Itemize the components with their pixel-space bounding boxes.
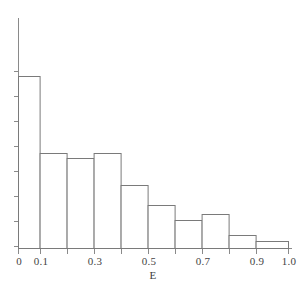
histogram-bar <box>148 206 175 249</box>
histogram-bar <box>256 242 288 249</box>
x-tick-label-0p5: 0.5 <box>142 255 156 267</box>
histogram-bar <box>121 186 148 249</box>
x-tick-label-0p7: 0.7 <box>196 255 210 267</box>
x-axis-ticks <box>19 249 289 255</box>
histogram-bar <box>94 154 121 249</box>
plot-area <box>0 0 306 292</box>
x-tick-label-1p0: 1.0 <box>282 255 296 267</box>
histogram-bar <box>229 236 256 249</box>
histogram-bar <box>19 77 41 249</box>
x-axis-label: E <box>149 269 156 281</box>
x-tick-label-0p9: 0.9 <box>250 255 264 267</box>
histogram-bar <box>175 221 202 249</box>
y-axis-ticks <box>14 72 19 247</box>
histogram-bars <box>19 77 289 249</box>
x-tick-label-0p1: 0.1 <box>34 255 48 267</box>
histogram-figure: 0 0.1 0.3 0.5 0.7 0.9 1.0 E <box>0 0 306 292</box>
histogram-bar <box>202 215 229 249</box>
histogram-bar <box>67 159 94 249</box>
x-tick-label-0: 0 <box>16 255 22 267</box>
x-tick-label-0p3: 0.3 <box>88 255 102 267</box>
histogram-bar <box>40 154 67 249</box>
